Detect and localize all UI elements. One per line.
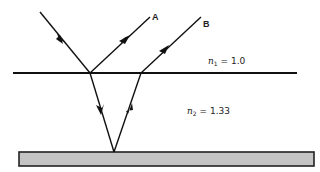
n2-symbol: n <box>187 106 193 116</box>
ray-label-b: B <box>203 19 210 29</box>
reflected-ray-b <box>141 17 201 73</box>
incident-ray <box>40 12 90 73</box>
n2-subscript: 2 <box>193 110 197 117</box>
refracted-ray-down <box>90 73 114 152</box>
n2-value: = 1.33 <box>200 106 230 116</box>
n1-subscript: 1 <box>214 60 218 67</box>
ray-diagram <box>0 0 320 172</box>
ray-b-arrow-icon <box>159 45 169 54</box>
medium-label-n1: n1 = 1.0 <box>208 56 245 66</box>
medium-label-n2: n2 = 1.33 <box>187 106 230 116</box>
substrate-plate <box>19 152 314 166</box>
n1-value: = 1.0 <box>221 56 246 66</box>
n1-symbol: n <box>208 56 214 66</box>
ray-label-a: A <box>152 12 159 22</box>
